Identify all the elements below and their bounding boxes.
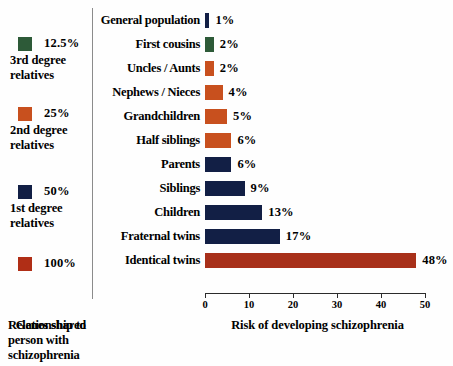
x-axis-line: [205, 293, 425, 294]
legend-description-line1: 3rd degree: [10, 53, 92, 68]
bar-wrapper: 5%: [205, 104, 453, 128]
bar: [205, 13, 209, 28]
bar: [205, 157, 231, 172]
bar-value-label: 4%: [229, 85, 248, 100]
category-label: Half siblings: [100, 133, 205, 148]
bar: [205, 61, 214, 76]
bar: [205, 109, 227, 124]
bar-chart: General population1%First cousins2%Uncle…: [100, 0, 453, 366]
x-axis-tick: [205, 293, 206, 298]
legend-item-100-percent: 100%: [10, 256, 92, 271]
x-axis-tick: [381, 293, 382, 298]
bar-row: Nephews / Nieces4%: [100, 80, 453, 104]
bar-row: First cousins2%: [100, 32, 453, 56]
x-axis-tick-label: 30: [332, 299, 343, 310]
x-axis-tick-label: 20: [288, 299, 299, 310]
legend-percent: 12.5%: [44, 36, 79, 51]
bar: [205, 205, 262, 220]
category-label: Nephews / Nieces: [100, 85, 205, 100]
legend-head: 100%: [10, 256, 92, 271]
legend-item-50-percent: 50% 1st degree relatives: [10, 184, 92, 231]
plot-area: General population1%First cousins2%Uncle…: [100, 8, 453, 293]
legend-item-12-5-percent: 12.5% 3rd degree relatives: [10, 36, 92, 83]
bar-value-label: 13%: [268, 205, 294, 220]
bar: [205, 133, 231, 148]
x-axis-tick: [293, 293, 294, 298]
bar: [205, 85, 223, 100]
relationship-caption: Relationship to person with schizophreni…: [8, 318, 103, 363]
bar: [205, 253, 416, 268]
bar-wrapper: 4%: [205, 80, 453, 104]
legend-description-line1: 1st degree: [10, 201, 92, 216]
bar-value-label: 2%: [220, 37, 239, 52]
bar-row: Grandchildren5%: [100, 104, 453, 128]
relationship-caption-line3: schizophrenia: [8, 348, 103, 363]
legend-swatch-green-icon: [18, 37, 32, 51]
legend-description: 1st degree relatives: [10, 201, 92, 231]
bar-row: General population1%: [100, 8, 453, 32]
legend-item-25-percent: 25% 2nd degree relatives: [10, 106, 92, 153]
legend-description: 2nd degree relatives: [10, 123, 92, 153]
category-label: Uncles / Aunts: [100, 61, 205, 76]
genes-shared-legend: 12.5% 3rd degree relatives 25% 2nd degre…: [0, 0, 92, 366]
x-axis-tick: [337, 293, 338, 298]
bar-value-label: 17%: [286, 229, 312, 244]
bar-wrapper: 6%: [205, 152, 453, 176]
x-axis-tick-label: 0: [202, 299, 207, 310]
bar-row: Fraternal twins17%: [100, 224, 453, 248]
bar-value-label: 9%: [251, 181, 270, 196]
legend-description-line1: 2nd degree: [10, 123, 92, 138]
category-label: Fraternal twins: [100, 229, 205, 244]
bar-value-label: 48%: [422, 253, 448, 268]
bar-wrapper: 13%: [205, 200, 453, 224]
bar-row: Children13%: [100, 200, 453, 224]
legend-swatch-orange-icon: [18, 107, 32, 121]
category-label: Parents: [100, 157, 205, 172]
x-axis-tick-label: 50: [420, 299, 431, 310]
bar-value-label: 1%: [215, 13, 234, 28]
bar-row: Half siblings6%: [100, 128, 453, 152]
legend-percent: 25%: [44, 106, 70, 121]
bar: [205, 37, 214, 52]
legend-head: 25%: [10, 106, 92, 121]
category-label: Grandchildren: [100, 109, 205, 124]
category-label: First cousins: [100, 37, 205, 52]
bar-row: Identical twins48%: [100, 248, 453, 272]
bar-wrapper: 6%: [205, 128, 453, 152]
schizophrenia-risk-figure: 12.5% 3rd degree relatives 25% 2nd degre…: [0, 0, 453, 366]
x-axis-tick-label: 40: [376, 299, 387, 310]
bar-wrapper: 9%: [205, 176, 453, 200]
panel-divider: [92, 8, 93, 299]
legend-head: 50%: [10, 184, 92, 199]
legend-percent: 100%: [44, 256, 76, 271]
bar: [205, 229, 280, 244]
bar-wrapper: 1%: [205, 8, 453, 32]
bar-wrapper: 48%: [205, 248, 453, 272]
bar-value-label: 5%: [233, 109, 252, 124]
x-axis-tick: [425, 293, 426, 298]
bar-value-label: 6%: [237, 133, 256, 148]
bar-wrapper: 2%: [205, 56, 453, 80]
legend-swatch-red-icon: [18, 257, 32, 271]
legend-description: 3rd degree relatives: [10, 53, 92, 83]
bar-row: Siblings9%: [100, 176, 453, 200]
legend-head: 12.5%: [10, 36, 92, 51]
x-axis-tick-label: 10: [244, 299, 255, 310]
legend-percent: 50%: [44, 184, 70, 199]
x-axis-title: Risk of developing schizophrenia: [200, 318, 435, 333]
legend-description-line2: relatives: [10, 68, 92, 83]
legend-description-line2: relatives: [10, 216, 92, 231]
legend-description-line2: relatives: [10, 138, 92, 153]
category-label: Siblings: [100, 181, 205, 196]
bar-row: Parents6%: [100, 152, 453, 176]
relationship-caption-line1: Relationship to: [8, 318, 103, 333]
x-axis-tick: [249, 293, 250, 298]
bar-value-label: 2%: [220, 61, 239, 76]
bar-wrapper: 2%: [205, 32, 453, 56]
bar-value-label: 6%: [237, 157, 256, 172]
category-label: General population: [100, 13, 205, 28]
bar: [205, 181, 245, 196]
bar-wrapper: 17%: [205, 224, 453, 248]
category-label: Children: [100, 205, 205, 220]
bar-row: Uncles / Aunts2%: [100, 56, 453, 80]
